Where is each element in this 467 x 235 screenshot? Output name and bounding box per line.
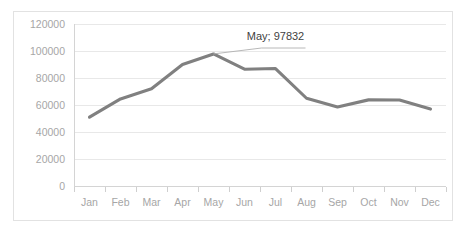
- x-axis-label: Jun: [236, 196, 253, 208]
- x-axis-label: Apr: [174, 196, 191, 208]
- x-axis-label: May: [204, 196, 225, 208]
- annotation-leader-line: [214, 48, 306, 54]
- y-axis-label: 120000: [30, 18, 65, 30]
- gridlines: [74, 25, 446, 187]
- x-axis-label: Jul: [269, 196, 282, 208]
- x-axis-tick-marks: [75, 187, 447, 192]
- y-axis-label: 0: [59, 180, 65, 192]
- x-axis-label: Mar: [142, 196, 161, 208]
- data-point-callout-may: May; 97832: [247, 30, 304, 42]
- y-axis-label: 20000: [36, 153, 65, 165]
- x-axis-label: Feb: [111, 196, 129, 208]
- y-axis-label: 100000: [30, 45, 65, 57]
- data-series-line: [90, 54, 431, 117]
- y-axis-label: 40000: [36, 126, 65, 138]
- y-axis-tick-labels: 020000400006000080000100000120000: [30, 18, 65, 192]
- x-axis-label: Oct: [360, 196, 376, 208]
- chart-container: 020000400006000080000100000120000 JanFeb…: [13, 11, 453, 221]
- x-axis-label: Sep: [328, 196, 347, 208]
- x-axis-tick-labels: JanFebMarAprMayJunJulAugSepOctNovDec: [81, 196, 440, 208]
- x-axis-label: Dec: [421, 196, 440, 208]
- line-chart: 020000400006000080000100000120000 JanFeb…: [14, 12, 452, 220]
- x-axis-label: Nov: [390, 196, 409, 208]
- x-axis-label: Aug: [297, 196, 316, 208]
- y-axis-label: 60000: [36, 99, 65, 111]
- y-axis-label: 80000: [36, 72, 65, 84]
- x-axis-label: Jan: [81, 196, 98, 208]
